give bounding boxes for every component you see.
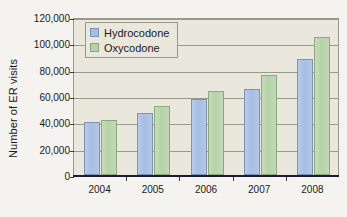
x-axis-tick-label: 2004 [88, 184, 110, 195]
bar-oxycodone-2007 [261, 75, 277, 175]
x-axis-tick [286, 177, 287, 181]
bar-chart: Number of ER visits 020,00040,00060,0008… [0, 0, 347, 217]
y-axis-tick-label: 40,000 [39, 118, 70, 129]
chart-legend: HydrocodoneOxycodone [85, 22, 178, 58]
y-axis-tick-label: 60,000 [39, 92, 70, 103]
x-axis-tick-label: 2005 [142, 184, 164, 195]
legend-swatch-oxycodone-icon [90, 43, 99, 52]
bar-oxycodone-2006 [208, 91, 224, 175]
y-axis-tick-label: 100,000 [34, 39, 70, 50]
bar-hydrocodone-2008 [297, 59, 313, 175]
y-axis-tick [70, 177, 74, 178]
bar-hydrocodone-2004 [84, 122, 100, 175]
x-axis-tick [179, 177, 180, 181]
bar-oxycodone-2005 [154, 106, 170, 175]
y-axis-tick-labels: 020,00040,00060,00080,000100,000120,000 [22, 12, 70, 182]
x-axis-tick-label: 2008 [301, 184, 323, 195]
y-axis-tick-label: 20,000 [39, 144, 70, 155]
bar-hydrocodone-2005 [137, 113, 153, 175]
bar-hydrocodone-2007 [244, 89, 260, 175]
y-axis-tick-label: 80,000 [39, 65, 70, 76]
x-axis-tick [126, 177, 127, 181]
legend-label: Oxycodone [104, 42, 160, 54]
legend-item-oxycodone: Oxycodone [90, 41, 169, 54]
x-axis-line [73, 175, 339, 177]
y-axis-tick-label: 120,000 [34, 13, 70, 24]
x-axis-tick [233, 177, 234, 181]
bar-oxycodone-2008 [314, 37, 330, 175]
x-axis-tick-label: 2006 [195, 184, 217, 195]
legend-swatch-hydrocodone-icon [90, 28, 99, 37]
y-axis-tick-label: 0 [64, 171, 70, 182]
bar-hydrocodone-2006 [191, 99, 207, 175]
x-axis-tick-label: 2007 [248, 184, 270, 195]
legend-label: Hydrocodone [104, 27, 169, 39]
bar-oxycodone-2004 [101, 120, 117, 175]
legend-item-hydrocodone: Hydrocodone [90, 26, 169, 39]
